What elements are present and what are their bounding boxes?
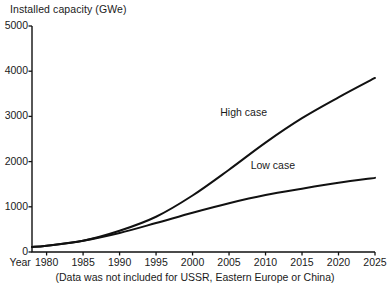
x-tick-label: 2005 <box>217 256 240 268</box>
y-tick-label: 2000 <box>0 155 28 167</box>
x-tick-label: 2010 <box>254 256 277 268</box>
y-tick-label: 3000 <box>0 109 28 121</box>
y-tick-label: 5000 <box>0 19 28 31</box>
x-tick-label: 1995 <box>144 256 167 268</box>
y-tick-label: 4000 <box>0 64 28 76</box>
chart-footnote: (Data was not included for USSR, Eastern… <box>0 271 390 283</box>
line-chart-plot <box>0 0 390 289</box>
x-tick-label: 2025 <box>363 256 386 268</box>
x-tick-label: 2015 <box>290 256 313 268</box>
x-tick-label: 1985 <box>71 256 94 268</box>
series-annotation-high-case: High case <box>220 106 267 118</box>
axes <box>29 26 376 256</box>
series-line-high-case <box>32 78 375 247</box>
x-tick-label: 2000 <box>181 256 204 268</box>
x-tick-label: 2020 <box>327 256 350 268</box>
series-annotation-low-case: Low case <box>251 159 295 171</box>
x-tick-label: 1980 <box>35 256 58 268</box>
data-series <box>32 78 375 247</box>
x-axis-label: Year <box>10 256 31 268</box>
chart-figure: Installed capacity (GWe) 010002000300040… <box>0 0 390 289</box>
x-tick-label: 1990 <box>108 256 131 268</box>
y-tick-label: 1000 <box>0 200 28 212</box>
